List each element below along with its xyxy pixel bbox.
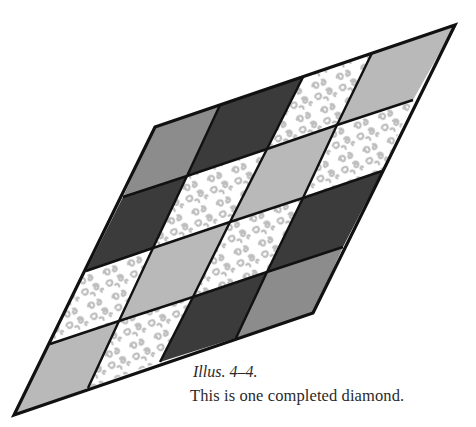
illustration-label: Illus. 4–4. bbox=[193, 363, 257, 381]
illustration-caption: This is one completed diamond. bbox=[190, 386, 404, 406]
